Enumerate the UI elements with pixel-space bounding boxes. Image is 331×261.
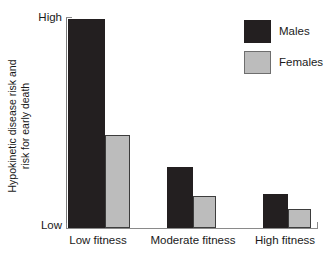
legend: Males Females [244,19,331,81]
x-category-label-1: Moderate fitness [136,234,250,246]
bar-males-high-fitness[interactable] [263,194,288,228]
bar-chart-figure: Hypokinetic disease risk and risk for ea… [0,0,331,261]
legend-label-females: Females [279,56,323,68]
legend-label-males: Males [279,25,310,37]
y-tick-label-low: Low [20,219,62,231]
y-axis-spine [66,17,67,229]
legend-item-females[interactable]: Females [244,50,331,74]
bar-females-low-fitness[interactable] [105,135,130,228]
bar-group-moderate-fitness [167,17,216,228]
y-axis-title-line-1: Hypokinetic disease risk and [6,59,19,192]
bar-females-high-fitness[interactable] [288,209,311,228]
x-category-label-0: Low fitness [52,234,144,246]
bar-group-low-fitness [68,17,130,228]
males-swatch-icon [244,20,271,43]
legend-item-males[interactable]: Males [244,19,331,43]
x-axis-baseline [66,228,318,229]
females-swatch-icon [244,51,271,74]
bar-males-moderate-fitness[interactable] [167,167,193,228]
bar-females-moderate-fitness[interactable] [193,196,216,228]
x-category-label-2: High fitness [242,234,328,246]
x-axis-tick-right [317,222,318,229]
y-axis-title-line-2: risk for early death [19,83,32,169]
y-tick-label-high: High [20,11,62,23]
bar-males-low-fitness[interactable] [68,19,105,228]
y-axis-tick-bottom [66,223,67,229]
y-axis-title: Hypokinetic disease risk and risk for ea… [2,28,36,224]
